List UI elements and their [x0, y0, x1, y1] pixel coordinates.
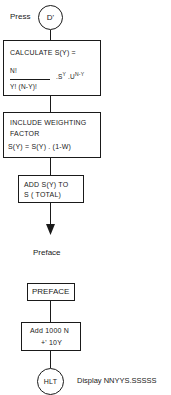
add-total-line2: S ( TOTAL): [24, 191, 61, 198]
start-key-label: D': [47, 13, 54, 22]
display-label: Display NNYYS.SSSSS: [77, 376, 157, 385]
weighting-box: INCLUDE WEIGHTING FACTOR S(Y) = S(Y) . (…: [3, 112, 101, 158]
preface-connector-label: Preface: [33, 248, 61, 257]
add-1000-line2: +' 10Y: [41, 339, 62, 346]
connector-line: [50, 30, 51, 40]
add-total-box: ADD S(Y) TO S ( TOTAL): [18, 175, 84, 203]
halt-key-circle: HLT: [37, 368, 64, 395]
calculate-box: CALCULATE S(Y) = N! Y! (N-Y)! .SY .UN-Y: [3, 40, 101, 96]
connector-line: [50, 158, 51, 175]
add-1000-line1: Add 1000 N: [30, 327, 69, 334]
fraction-factors: .SY .UN-Y: [56, 71, 84, 80]
connector-line: [50, 96, 51, 112]
arrow-down-icon: [46, 224, 55, 235]
connector-line: [50, 351, 51, 368]
fraction-bar: [10, 79, 50, 80]
weighting-line2: FACTOR: [10, 130, 39, 137]
fraction-numerator: N!: [10, 67, 17, 74]
start-key-circle: D': [38, 5, 63, 30]
add-total-line1: ADD S(Y) TO: [24, 181, 68, 188]
weighting-formula: S(Y) = S(Y) . (1-W): [8, 143, 71, 150]
fraction-denominator: Y! (N-Y)!: [10, 83, 37, 90]
preface-box-label: PREFACE: [32, 287, 69, 296]
press-label: Press: [10, 12, 30, 21]
weighting-line1: INCLUDE WEIGHTING: [10, 119, 87, 126]
factor-u: .U: [66, 73, 75, 80]
preface-box: PREFACE: [27, 283, 75, 301]
halt-key-label: HLT: [44, 378, 57, 385]
factor-u-exponent: N-Y: [75, 71, 84, 77]
add-1000-box: Add 1000 N +' 10Y: [21, 322, 81, 351]
calculate-title: CALCULATE S(Y) =: [10, 49, 76, 56]
connector-line: [50, 301, 51, 322]
